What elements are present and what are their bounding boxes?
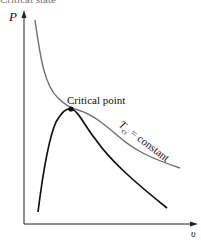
critical-point-label: Critical point — [67, 94, 125, 106]
critical-point-marker — [68, 106, 73, 111]
y-axis-arrow-icon — [22, 10, 27, 18]
saturation-dome-curve — [38, 109, 167, 212]
isotherm-label-rest: = constant — [126, 125, 172, 164]
pv-diagram: P υ Critical point Tcr = constant — [0, 0, 201, 240]
svg-text:Tcr = constant: Tcr = constant — [115, 118, 172, 166]
axes — [22, 10, 199, 227]
x-axis-label: υ — [191, 228, 196, 239]
x-axis-arrow-icon — [190, 222, 198, 227]
y-axis-label: P — [8, 9, 17, 24]
isotherm-label: Tcr = constant — [115, 118, 172, 166]
